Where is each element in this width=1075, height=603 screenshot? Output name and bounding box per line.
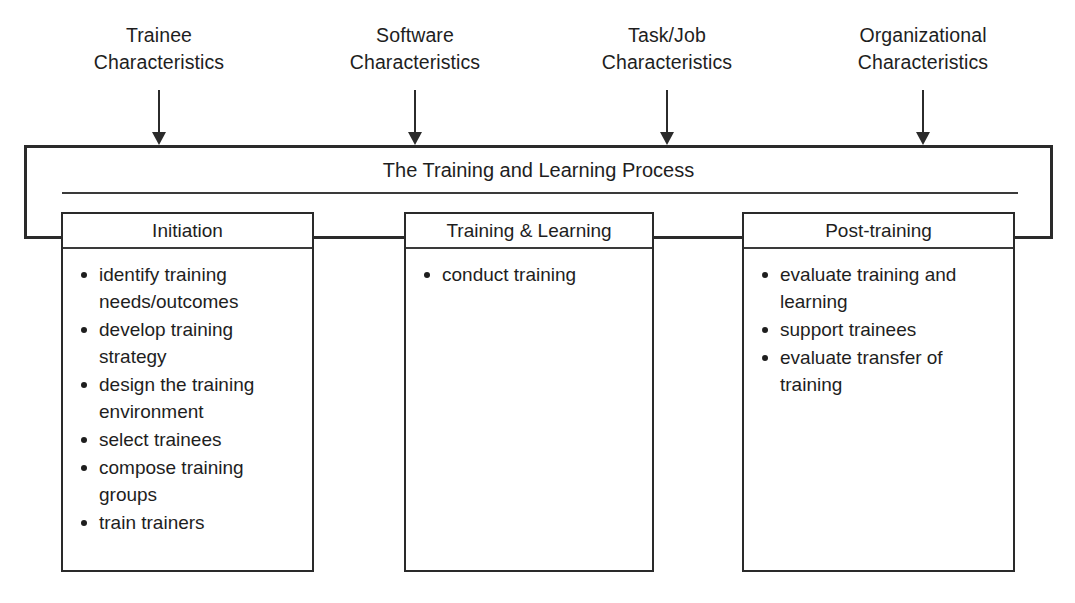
list-item: train trainers	[75, 509, 302, 536]
input-label-line1: Organizational	[823, 22, 1023, 49]
connector-training-to-post	[653, 236, 744, 239]
input-label-line1: Trainee	[59, 22, 259, 49]
bullet-icon	[762, 327, 768, 333]
bullet-icon	[81, 437, 87, 443]
input-label-task-job: Task/Job Characteristics	[567, 22, 767, 76]
input-label-line2: Characteristics	[567, 49, 767, 76]
list-item-text: develop training strategy	[99, 319, 233, 367]
input-label-trainee: Trainee Characteristics	[59, 22, 259, 76]
list-item: identify training needs/outcomes	[75, 261, 302, 315]
process-divider	[62, 192, 1018, 194]
list-item-text: select trainees	[99, 429, 222, 450]
diagram-canvas: Trainee Characteristics Software Charact…	[0, 0, 1075, 603]
phase-item-list-post-training: evaluate training and learning support t…	[744, 249, 1013, 398]
list-item: evaluate training and learning	[756, 261, 1003, 315]
list-item-text: evaluate transfer of training	[780, 347, 943, 395]
input-label-line2: Characteristics	[315, 49, 515, 76]
list-item: compose training groups	[75, 454, 302, 508]
arrow-down-icon-organizational	[915, 90, 931, 146]
list-item: select trainees	[75, 426, 302, 453]
list-item-text: conduct training	[442, 264, 576, 285]
phase-title: Post-training	[825, 219, 932, 243]
phase-title: Initiation	[152, 219, 223, 243]
list-item: conduct training	[418, 261, 642, 288]
phase-title: Training & Learning	[446, 219, 611, 243]
phase-item-list-training-learning: conduct training	[406, 249, 652, 288]
list-item-text: identify training needs/outcomes	[99, 264, 238, 312]
arrow-down-icon-trainee	[151, 90, 167, 146]
phase-header-post-training: Post-training	[744, 214, 1013, 249]
input-label-software: Software Characteristics	[315, 22, 515, 76]
input-label-line1: Software	[315, 22, 515, 49]
arrow-down-icon-task-job	[659, 90, 675, 146]
list-item: evaluate transfer of training	[756, 344, 1003, 398]
bullet-icon	[81, 465, 87, 471]
bullet-icon	[81, 327, 87, 333]
list-item-text: compose training groups	[99, 457, 244, 505]
connector-left-edge	[24, 236, 64, 239]
list-item-text: train trainers	[99, 512, 205, 533]
phase-item-list-initiation: identify training needs/outcomes develop…	[63, 249, 312, 536]
bullet-icon	[81, 272, 87, 278]
process-title: The Training and Learning Process	[24, 157, 1053, 183]
list-item: support trainees	[756, 316, 1003, 343]
list-item-text: design the training environment	[99, 374, 254, 422]
list-item: design the training environment	[75, 371, 302, 425]
arrow-down-icon-software	[407, 90, 423, 146]
bullet-icon	[81, 520, 87, 526]
phase-box-post-training: Post-training evaluate training and lear…	[742, 212, 1015, 572]
phase-header-initiation: Initiation	[63, 214, 312, 249]
input-label-line2: Characteristics	[823, 49, 1023, 76]
connector-right-edge	[1013, 236, 1053, 239]
list-item: develop training strategy	[75, 316, 302, 370]
input-label-line2: Characteristics	[59, 49, 259, 76]
list-item-text: support trainees	[780, 319, 916, 340]
bullet-icon	[762, 272, 768, 278]
bullet-icon	[424, 272, 430, 278]
phase-box-initiation: Initiation identify training needs/outco…	[61, 212, 314, 572]
connector-initiation-to-training	[312, 236, 406, 239]
phase-header-training-learning: Training & Learning	[406, 214, 652, 249]
list-item-text: evaluate training and learning	[780, 264, 956, 312]
input-label-organizational: Organizational Characteristics	[823, 22, 1023, 76]
bullet-icon	[762, 355, 768, 361]
phase-box-training-learning: Training & Learning conduct training	[404, 212, 654, 572]
input-label-line1: Task/Job	[567, 22, 767, 49]
bullet-icon	[81, 382, 87, 388]
